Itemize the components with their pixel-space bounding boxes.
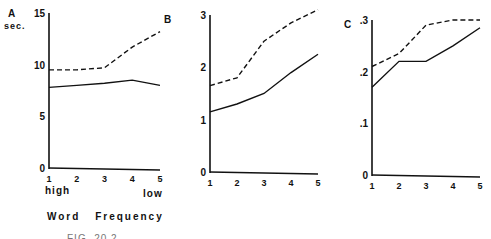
x-tick-label: 2 [234,178,239,188]
panel-c-label: C [344,19,352,30]
x-tick-label: 3 [102,174,107,184]
series-solid-line [372,28,480,87]
y-tick-label: 0 [362,170,368,181]
series-solid-line [49,80,160,87]
x-tick-label: 4 [450,181,455,191]
y-tick-label: .2 [360,67,369,78]
y-tick-label: .1 [360,118,369,129]
chart-figure: 051015123450123123450.1.2.312345 [0,0,491,239]
y-tick-label: 0 [200,167,206,178]
x-tick-label: 4 [130,174,135,184]
x-tick-label: 5 [315,178,320,188]
y-unit-label: sec. [4,21,26,31]
y-tick-label: 1 [200,115,206,126]
x-tick-label: 2 [396,181,401,191]
x-axis [49,168,160,170]
x-axis [210,172,318,174]
x-tick-label: 2 [74,174,79,184]
y-tick-label: 15 [34,8,46,19]
x-tick-label: 1 [369,181,374,191]
x-axis [372,175,480,177]
x-high-label: high [45,185,70,196]
panel-c: 0.1.2.312345 [360,15,483,191]
x-tick-label: 3 [423,181,428,191]
x-low-label: low [143,188,163,199]
y-tick-label: 5 [39,111,45,122]
series-dashed-line [372,20,480,67]
x-tick-label: 5 [477,181,482,191]
series-solid-line [210,54,318,112]
y-tick-label: 2 [200,62,206,73]
y-tick-label: .3 [360,15,369,26]
x-tick-label: 5 [157,174,162,184]
panel-b: 012312345 [200,10,320,188]
x-axis-title: Word Frequency [47,211,164,222]
x-tick-label: 1 [46,174,51,184]
series-dashed-line [49,32,160,70]
panel-b-label: B [164,14,172,25]
x-tick-label: 1 [207,178,212,188]
x-tick-label: 4 [288,178,293,188]
x-tick-label: 3 [261,178,266,188]
y-tick-label: 0 [39,163,45,174]
y-tick-label: 3 [200,10,206,21]
panel-a-label: A [8,8,16,19]
series-dashed-line [210,10,318,86]
figure-caption: FIG. 20.2 [67,233,118,239]
y-tick-label: 10 [34,60,46,71]
panel-a: 05101512345 [34,8,163,184]
